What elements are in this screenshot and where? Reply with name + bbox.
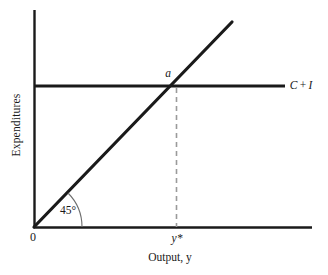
angle-label: 45° [60,205,76,217]
equilibrium-point-label: a [165,68,171,80]
c-plus-i-label-c: C [290,79,298,91]
y-axis-title: Expenditures [11,93,23,156]
equilibrium-output-tick-label: y* [172,233,183,245]
forty-five-degree-line [34,22,232,227]
c-plus-i-label-operator: + [297,79,308,91]
c-plus-i-label-i: I [308,79,312,91]
x-axis-title: Output, y [148,252,191,264]
keynesian-cross-figure: Expenditures Output, y 0 45° a y* C + I [0,0,328,275]
origin-label: 0 [30,231,36,243]
c-plus-i-label: C + I [290,80,313,92]
plot-area [0,0,328,275]
